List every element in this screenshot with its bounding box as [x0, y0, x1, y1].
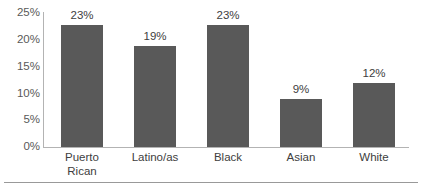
bar-value-asian: 9%: [266, 84, 336, 96]
x-axis-label-asian: Asian: [262, 150, 340, 164]
x-axis-label-white: White: [335, 150, 413, 164]
x-axis-line: [43, 147, 409, 148]
bar-value-puerto-rican: 23%: [47, 10, 117, 22]
bar-value-white: 12%: [339, 68, 409, 80]
bar-latino-as: [134, 46, 176, 147]
x-axis-label-puerto-rican: Puerto Rican: [43, 150, 121, 178]
y-axis-labels: 25% 20% 15% 10% 5% 0%: [0, 0, 40, 192]
bar-value-black: 23%: [193, 10, 263, 22]
bar-chart: 25% 20% 15% 10% 5% 0% 23% 19% 23% 9% 12%: [0, 0, 421, 192]
bar-black: [207, 25, 249, 147]
bar-puerto-rican: [61, 25, 103, 147]
y-axis-tick-0: 0%: [2, 141, 40, 153]
x-axis-label-puerto-rican-line1: Puerto: [43, 150, 121, 164]
y-axis-tick-20: 20%: [2, 34, 40, 46]
x-axis-label-puerto-rican-line2: Rican: [43, 164, 121, 178]
bar-value-latino-as: 19%: [120, 31, 190, 43]
bar-white: [353, 83, 395, 147]
plot-area: 23% 19% 23% 9% 12%: [43, 13, 405, 147]
x-axis-label-black: Black: [189, 150, 267, 164]
x-axis-label-latino-as: Latino/as: [116, 150, 194, 164]
y-axis-tick-5: 5%: [2, 114, 40, 126]
y-axis-tick-15: 15%: [2, 61, 40, 73]
bar-asian: [280, 99, 322, 147]
bottom-divider: [4, 182, 418, 183]
y-axis-tick-25: 25%: [2, 7, 40, 19]
y-axis-tick-10: 10%: [2, 88, 40, 100]
